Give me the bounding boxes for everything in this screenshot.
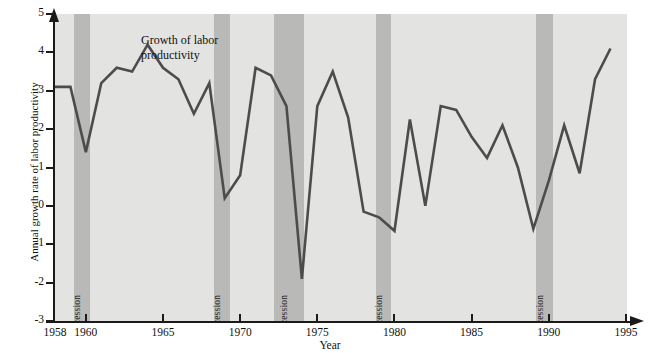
y-axis-tick <box>46 51 55 53</box>
y-axis-tick-label: 5 <box>16 6 44 18</box>
x-axis-tick-label: 1965 <box>140 326 186 338</box>
x-axis-tick <box>471 314 473 322</box>
x-axis-tick-label: 1980 <box>371 326 417 338</box>
y-axis-line <box>53 20 55 323</box>
x-axis-title: Year <box>0 339 660 351</box>
series-polyline <box>55 45 610 279</box>
y-axis-arrow-icon <box>49 8 59 22</box>
x-axis-tick <box>162 314 164 322</box>
x-axis-tick <box>85 314 87 322</box>
x-axis-arrow-icon <box>630 316 644 326</box>
y-axis-tick-label: -3 <box>16 313 44 325</box>
y-axis-tick <box>46 13 55 15</box>
y-axis-tick <box>46 90 55 92</box>
x-axis-tick-label: 1975 <box>294 326 340 338</box>
y-axis-tick <box>46 205 55 207</box>
y-axis-tick <box>46 243 55 245</box>
x-axis-tick-label: 1970 <box>217 326 263 338</box>
x-axis-tick <box>239 314 241 322</box>
x-axis-tick-label: 1960 <box>63 326 109 338</box>
x-axis-tick <box>316 314 318 322</box>
x-axis-tick <box>625 314 627 322</box>
x-axis-tick-label: 1985 <box>449 326 495 338</box>
x-axis-tick <box>548 314 550 322</box>
x-axis-tick-label: 1995 <box>603 326 649 338</box>
y-axis-tick <box>46 128 55 130</box>
y-axis-tick <box>46 282 55 284</box>
y-axis-tick <box>46 320 55 322</box>
x-axis-line <box>46 321 631 323</box>
y-axis-title: Annual growth rate of labor productivity <box>28 42 40 302</box>
y-axis-tick <box>46 167 55 169</box>
series-annotation-label: Growth of labor productivity <box>141 33 261 62</box>
x-axis-tick-label: 1990 <box>526 326 572 338</box>
chart-figure: RecessionRecessionRecessionRecessionRece… <box>0 0 660 353</box>
x-axis-tick <box>393 314 395 322</box>
